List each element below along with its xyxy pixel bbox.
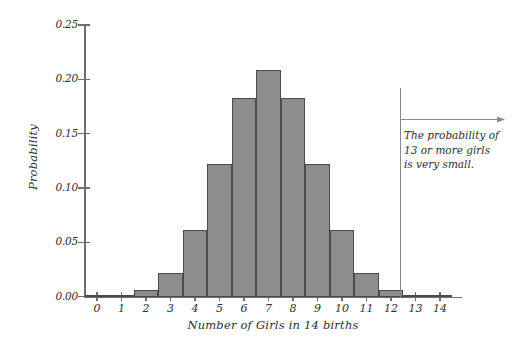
- y-tick-label: 0.25: [38, 18, 78, 30]
- chart-figure: 0.000.050.100.150.200.25 012345678910111…: [0, 0, 513, 339]
- x-tick-label: 10: [330, 302, 354, 315]
- bar: [232, 98, 257, 297]
- x-tick-label: 2: [134, 302, 158, 315]
- y-tick-label: 0.00: [38, 290, 78, 302]
- bar: [330, 230, 355, 296]
- bar: [305, 164, 330, 297]
- annotation-line: 13 or more girls: [404, 143, 510, 158]
- x-tick-label: 7: [257, 302, 281, 315]
- y-tick-mark: [78, 133, 90, 134]
- y-tick-mark: [78, 24, 90, 25]
- y-tick-mark: [78, 242, 90, 243]
- y-tick-label: 0.05: [38, 235, 78, 247]
- bar: [354, 273, 379, 297]
- annotation-line: is very small.: [404, 157, 510, 172]
- bar: [207, 164, 232, 297]
- x-tick-label: 3: [159, 302, 183, 315]
- y-tick-mark: [78, 187, 90, 188]
- y-tick-label: 0.15: [38, 127, 78, 139]
- bar: [403, 295, 428, 297]
- y-tick-label-wrap: 0.15: [38, 127, 78, 141]
- bar: [281, 98, 306, 297]
- y-tick-label: 0.20: [38, 72, 78, 84]
- y-tick-label: 0.10: [38, 181, 78, 193]
- x-tick-label: 12: [379, 302, 403, 315]
- x-tick-label: 0: [85, 302, 109, 315]
- bar: [428, 295, 453, 297]
- bar: [109, 295, 134, 297]
- x-tick-label: 5: [208, 302, 232, 315]
- bar: [134, 290, 159, 297]
- bar: [158, 273, 183, 297]
- y-tick-label-wrap: 0.00: [38, 290, 78, 304]
- x-tick-label: 4: [183, 302, 207, 315]
- y-tick-label-wrap: 0.20: [38, 72, 78, 86]
- y-axis-title: Probability: [26, 102, 40, 212]
- y-tick-label-wrap: 0.10: [38, 181, 78, 195]
- x-tick-label: 8: [281, 302, 305, 315]
- annotation-line: The probability of: [404, 128, 510, 143]
- bar: [183, 230, 208, 296]
- x-axis-title: Number of Girls in 14 births: [84, 318, 462, 332]
- y-tick-label-wrap: 0.05: [38, 235, 78, 249]
- bar: [85, 295, 110, 297]
- y-axis-line: [84, 25, 86, 298]
- y-tick-mark: [78, 79, 90, 80]
- x-tick-label: 9: [306, 302, 330, 315]
- annotation-text: The probability of13 or more girlsis ver…: [404, 128, 510, 172]
- annotation-arrow-icon: [401, 115, 505, 124]
- x-tick-label: 11: [355, 302, 379, 315]
- x-tick-label: 14: [428, 302, 452, 315]
- bar: [256, 70, 281, 297]
- x-tick-label: 13: [404, 302, 428, 315]
- x-tick-label: 1: [110, 302, 134, 315]
- y-tick-label-wrap: 0.25: [38, 18, 78, 32]
- x-tick-label: 6: [232, 302, 256, 315]
